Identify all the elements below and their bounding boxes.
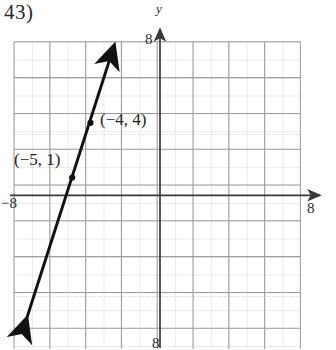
coordinate-plane <box>0 0 336 350</box>
y-axis-tick-label-top: 8 <box>145 32 153 47</box>
plot-point-a <box>87 120 93 126</box>
x-axis-tick-label-left: −8 <box>1 196 17 211</box>
y-axis-name-label: y <box>156 2 162 15</box>
y-axis-tick-label-bottom: 8 <box>152 336 160 350</box>
x-axis-tick-label-right: 8 <box>307 201 315 216</box>
worksheet-graph-screenshot: 43) <box>0 0 336 350</box>
point-label-b: (−5, 1) <box>14 151 60 168</box>
plot-point-b <box>69 174 75 180</box>
point-label-a: (−4, 4) <box>100 111 146 128</box>
coordinate-plane-svg <box>0 0 336 350</box>
